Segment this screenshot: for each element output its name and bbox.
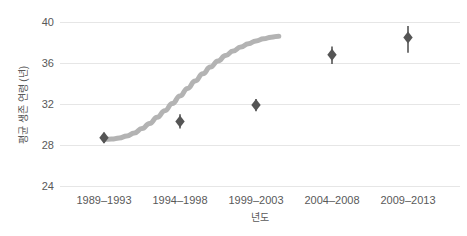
gridline — [60, 186, 460, 187]
gridline — [60, 22, 460, 23]
y-axis-tick-labels: 4036322824 — [26, 0, 54, 236]
y-tick-label: 32 — [26, 98, 54, 110]
x-tick-label: 2004–2008 — [304, 194, 359, 206]
x-tick-label: 1989–1993 — [76, 194, 131, 206]
x-tick-label: 1994–1998 — [152, 194, 207, 206]
plot-area — [60, 14, 460, 192]
y-tick-label: 40 — [26, 16, 54, 28]
y-tick-label: 36 — [26, 57, 54, 69]
gridline — [60, 63, 460, 64]
gridline — [60, 145, 460, 146]
gridline — [60, 104, 460, 105]
chart-figure: 평균 생존 연령 (년) 4036322824 1989–19931994–19… — [0, 0, 467, 236]
x-axis-title: 년도 — [60, 209, 460, 224]
x-tick-label: 1999–2003 — [228, 194, 283, 206]
y-tick-label: 28 — [26, 139, 54, 151]
x-axis-tick-labels: 1989–19931994–19981999–20032004–20082009… — [60, 194, 460, 210]
y-tick-label: 24 — [26, 180, 54, 192]
x-tick-label: 2009–2013 — [380, 194, 435, 206]
